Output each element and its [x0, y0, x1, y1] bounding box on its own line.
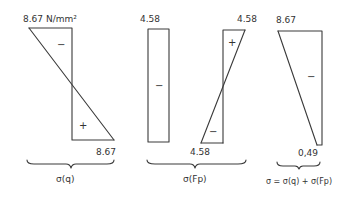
sigma-fp-bottom-label: 4.58 — [190, 147, 210, 157]
stress-diagram-canvas: 8.67 N/mm² − + 8.67 σ(q) 4.58 − 4.58 + −… — [0, 0, 358, 198]
sigma-q-brace — [27, 160, 114, 168]
sigma-fp-minus-sign: − — [209, 126, 217, 137]
sigma-total-diagonal — [278, 31, 317, 145]
panel-sigma-fp: 4.58 − 4.58 + − 4.58 σ(Fp) — [140, 14, 257, 184]
sigma-fp-caption: σ(Fp) — [183, 174, 207, 184]
sigma-q-plus-sign: + — [79, 120, 87, 131]
sigma-total-caption: σ = σ(q) + σ(Fp) — [266, 177, 332, 186]
sigma-q-top-label: 8.67 N/mm² — [23, 14, 77, 24]
sigma-q-bottom-label: 8.67 — [96, 147, 116, 157]
sigma-total-bottom-label: 0,49 — [298, 148, 318, 158]
sigma-total-minus-sign: − — [307, 71, 315, 82]
sigma-fp-right-top-label: 4.58 — [237, 14, 257, 24]
sigma-q-minus-sign: − — [57, 39, 65, 50]
sigma-fp-left-top-label: 4.58 — [140, 14, 160, 24]
sigma-q-caption: σ(q) — [56, 174, 74, 184]
sigma-total-outline — [278, 31, 322, 145]
panel-sigma-total: 8.67 − 0,49 σ = σ(q) + σ(Fp) — [266, 15, 332, 186]
sigma-total-brace — [277, 162, 320, 169]
panel-sigma-q: 8.67 N/mm² − + 8.67 σ(q) — [23, 14, 116, 184]
sigma-total-top-label: 8.67 — [276, 15, 296, 25]
sigma-fp-brace — [147, 160, 246, 168]
sigma-fp-left-minus-sign: − — [155, 80, 163, 91]
sigma-fp-plus-sign: + — [228, 37, 236, 48]
